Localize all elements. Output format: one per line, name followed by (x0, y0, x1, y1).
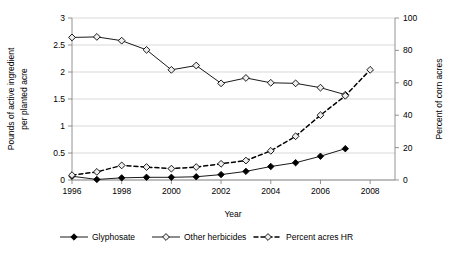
data-point-marker (218, 160, 225, 167)
y-tick-labels-right: 020406080100 (403, 13, 417, 185)
data-point-marker (342, 145, 348, 151)
data-point-marker (143, 164, 150, 171)
data-point-marker (268, 163, 274, 169)
data-series-group (69, 34, 374, 183)
tickmarks-group (68, 18, 399, 184)
chart-legend: GlyphosateOther herbicidesPercent acres … (60, 232, 353, 242)
data-point-marker (143, 174, 149, 180)
y-tick-labels-left: 00.511.522.53 (53, 13, 65, 185)
y-tick-label-right: 20 (403, 143, 413, 153)
data-point-marker (243, 168, 249, 174)
y-tick-label-right: 60 (403, 78, 413, 88)
x-axis-label: Year (224, 209, 241, 219)
data-point-marker (118, 162, 125, 169)
y-axis-label-left-2: per planted acre (19, 68, 29, 130)
x-tick-label: 2006 (311, 186, 330, 196)
legend-label: Other herbicides (184, 232, 246, 242)
data-point-marker (118, 37, 125, 44)
data-point-marker (69, 34, 76, 41)
y-tick-label-right: 40 (403, 110, 413, 120)
x-tick-label: 2008 (361, 186, 380, 196)
y-tick-label-left: 3 (60, 13, 65, 23)
series-polyline (72, 37, 345, 95)
legend-marker (71, 234, 77, 240)
data-point-marker (317, 153, 323, 159)
y-tick-label-right: 100 (403, 13, 417, 23)
data-point-marker (218, 171, 224, 177)
x-tick-label: 2002 (212, 186, 231, 196)
y-tick-label-right: 80 (403, 45, 413, 55)
x-tick-label: 2004 (261, 186, 280, 196)
data-point-marker (193, 174, 199, 180)
data-point-marker (243, 157, 250, 164)
y-axis-label-left: Pounds of active ingredient (6, 47, 16, 150)
series-1 (69, 145, 349, 182)
data-point-marker (168, 174, 174, 180)
legend-marker (163, 234, 170, 241)
data-point-marker (267, 79, 274, 86)
legend-item-1[interactable]: Glyphosate (60, 232, 135, 242)
chart-container: 1996199820002002200420062008 00.511.522.… (0, 0, 461, 256)
legend-label: Glyphosate (92, 232, 135, 242)
data-point-marker (218, 80, 225, 87)
legend-item-2[interactable]: Other herbicides (152, 232, 246, 242)
y-tick-label-left: 1 (60, 121, 65, 131)
y-tick-label-right: 0 (403, 175, 408, 185)
y-tick-label-left: 0 (60, 175, 65, 185)
data-point-marker (292, 160, 298, 166)
y-tick-label-left: 2 (60, 67, 65, 77)
data-point-marker (94, 176, 100, 182)
data-point-marker (193, 62, 200, 69)
x-tick-label: 1996 (63, 186, 82, 196)
line-chart: 1996199820002002200420062008 00.511.522.… (0, 0, 461, 256)
x-tick-label: 1998 (112, 186, 131, 196)
y-tick-label-left: 0.5 (53, 148, 65, 158)
legend-item-3[interactable]: Percent acres HR (254, 232, 353, 242)
data-point-marker (93, 169, 100, 176)
y-tick-label-left: 1.5 (53, 94, 65, 104)
x-tick-label: 2000 (162, 186, 181, 196)
legend-label: Percent acres HR (286, 232, 353, 242)
series-2 (69, 34, 349, 99)
y-axis-label-right: Percent of corn acres (434, 59, 444, 140)
y-tick-label-left: 2.5 (53, 40, 65, 50)
data-point-marker (168, 165, 175, 172)
data-point-marker (193, 164, 200, 171)
data-point-marker (93, 34, 100, 41)
data-point-marker (292, 80, 299, 87)
x-tick-labels: 1996199820002002200420062008 (63, 186, 380, 196)
legend-marker (265, 234, 272, 241)
data-point-marker (243, 75, 250, 82)
data-point-marker (317, 84, 324, 91)
